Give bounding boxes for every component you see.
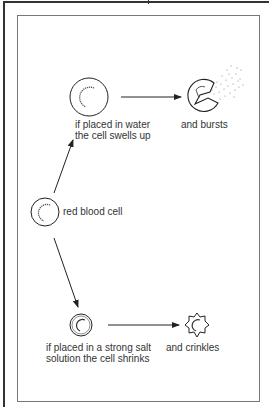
water-cell-label-line2: the cell swells up <box>75 130 151 141</box>
arrow-to-water-cell <box>54 140 73 193</box>
water-cell-label-line1: if placed in water <box>75 119 150 130</box>
shrunk-cell-icon <box>70 314 92 336</box>
burst-cell-icon <box>188 65 244 111</box>
salt-cell-label-line2: solution the cell shrinks <box>46 353 149 364</box>
burst-cell-label: and bursts <box>181 119 228 130</box>
crinkled-cell-label: and crinkles <box>166 342 219 353</box>
red-blood-cell-label: red blood cell <box>63 206 122 217</box>
swollen-cell-icon <box>70 78 108 116</box>
arrow-to-salt-cell <box>54 238 78 307</box>
red-blood-cell-icon <box>31 198 59 226</box>
crinkled-cell-icon <box>185 313 209 337</box>
salt-cell-label-line1: if placed in a strong salt <box>46 342 151 353</box>
